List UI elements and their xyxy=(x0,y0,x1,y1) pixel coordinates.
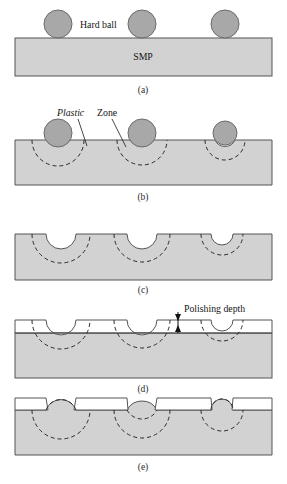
hard-ball xyxy=(128,119,156,147)
polishing-depth-label: Polishing depth xyxy=(184,303,245,314)
hard-ball xyxy=(213,121,237,145)
smp-polishing-figure: Hard ball SMP (a) Plastic Zone (b) (c) xyxy=(0,0,287,484)
panel-c: (c) xyxy=(15,234,272,296)
panel-d-bulk xyxy=(15,333,272,378)
hard-ball xyxy=(44,119,72,147)
panel-c-substrate xyxy=(15,234,272,280)
panel-e-label: (e) xyxy=(138,462,149,473)
panel-a: Hard ball SMP (a) xyxy=(15,10,272,96)
panel-c-label: (c) xyxy=(138,285,149,296)
hard-ball xyxy=(128,10,156,38)
smp-label: SMP xyxy=(133,51,153,62)
panel-b: Plastic Zone (b) xyxy=(15,107,272,203)
panel-d: Polishing depth (d) xyxy=(15,303,272,395)
hard-ball xyxy=(211,10,239,38)
panel-a-label: (a) xyxy=(138,85,149,96)
panel-e: (e) xyxy=(15,398,272,473)
plastic-zone-label: Plastic xyxy=(56,107,85,118)
panel-d-label: (d) xyxy=(137,384,148,395)
panel-b-label: (b) xyxy=(137,192,148,203)
plastic-zone-label-suffix: Zone xyxy=(97,107,118,118)
hard-ball-label: Hard ball xyxy=(80,19,117,30)
hard-ball xyxy=(44,10,72,38)
